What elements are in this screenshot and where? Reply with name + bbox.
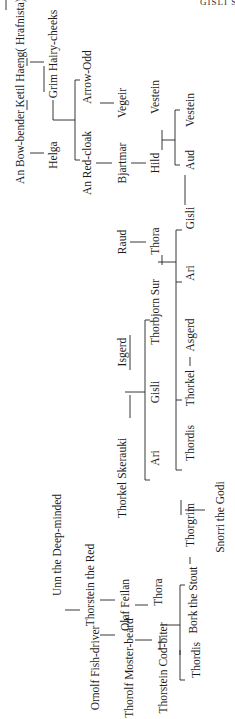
person-thorkel: Thorkel (184, 370, 196, 406)
person-vegeir: Vegeir (116, 88, 128, 118)
person-thora-2: Thora (152, 578, 164, 605)
person-aud: Aud (184, 150, 196, 170)
person-thorkel-skerauki: Thorkel Skerauki (116, 438, 128, 518)
person-gisli-2: Gisli (149, 381, 161, 403)
person-asgerd: Asgerd (184, 318, 196, 351)
person-isgerd: Isgerd (116, 338, 128, 367)
person-thora-1: Thora (149, 227, 161, 254)
person-grim-hairy-cheeks: Grim Hairy-cheeks (47, 10, 59, 98)
person-thordis-2: Thordis (190, 642, 202, 678)
person-vestein-1: Vestein (149, 80, 161, 114)
person-snorri-the-godi: Snorri the Godi (214, 481, 226, 553)
person-thorstein-cod-biter: Thorstein Cod-biter (157, 622, 169, 713)
person-bjartmar: Bjartmar (116, 143, 128, 184)
person-thordis-1: Thordis (184, 425, 196, 461)
person-raud: Raud (116, 230, 128, 254)
person-ari-1: Ari (184, 265, 196, 280)
person-gisli-1: Gisli (184, 207, 196, 229)
person-vestein-2: Vestein (184, 93, 196, 127)
person-thorgrim: Thorgrim (184, 503, 196, 547)
person-thorbjorn-sur: Thorbjorn Sur (149, 279, 161, 344)
person-helga: Helga (47, 141, 59, 168)
person-thorolf-moster-beard: Thorolf Moster-beard (123, 618, 135, 718)
person-unn-the-deep-minded: Unn the Deep-minded (51, 494, 63, 596)
person-hild: Hild (149, 153, 161, 173)
person-thorstein-the-red: Thorstein the Red (84, 544, 96, 626)
person-bork-the-stout: Bork the Stout (187, 566, 199, 633)
person-ketil-haeng: Ketil Haeng( Hrafnista) (14, 0, 26, 108)
person-arrow-odd: Arrow-Odd (81, 50, 93, 104)
person-ari-2: Ari (149, 450, 161, 465)
person-an-red-cloak: An Red-cloak (81, 131, 93, 195)
person-ornolf-fish-driver: Ornolf Fish-driver (89, 626, 101, 711)
person-an-bow-bender: An Bow-bender (14, 110, 26, 184)
